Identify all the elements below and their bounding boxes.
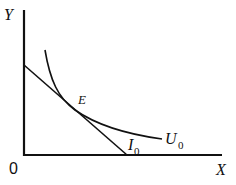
budget-line-subscript: 0	[134, 145, 140, 157]
indifference-curve-subscript: 0	[178, 139, 184, 151]
tangency-point-label: E	[77, 92, 86, 107]
diagram-canvas: Y X 0 E U 0 I 0	[0, 0, 236, 185]
y-axis-label: Y	[4, 6, 15, 23]
origin-label: 0	[9, 160, 18, 177]
indifference-curve-label: U	[165, 130, 178, 147]
x-axis-label: X	[215, 161, 227, 178]
budget-line-label: I	[127, 136, 134, 153]
indifference-curve	[45, 50, 162, 139]
